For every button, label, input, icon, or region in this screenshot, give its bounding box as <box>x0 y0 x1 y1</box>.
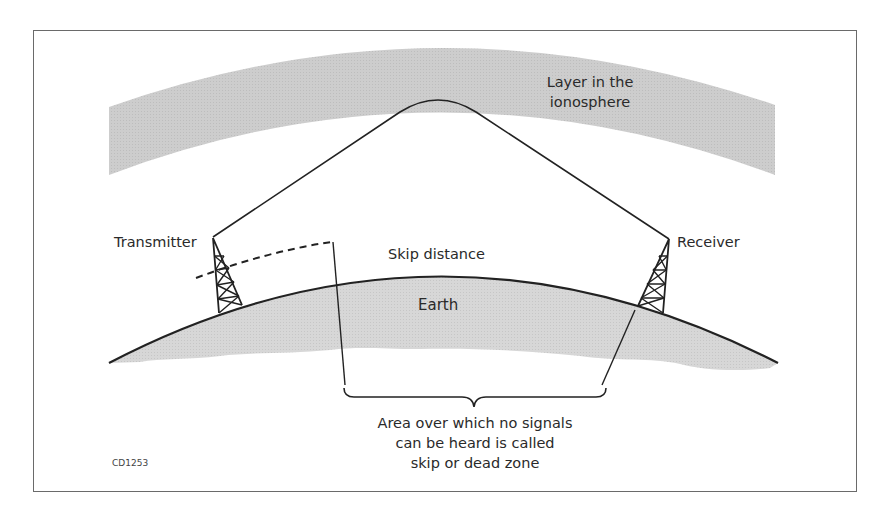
ionosphere-label: Layer in the ionosphere <box>530 72 650 112</box>
transmitter-tower <box>213 238 242 313</box>
dead-zone-caption-line2: can be heard is called <box>330 433 620 453</box>
ionosphere-label-line2: ionosphere <box>530 92 650 112</box>
ionosphere-layer <box>109 48 775 175</box>
earth-label: Earth <box>418 298 458 313</box>
dead-zone-caption: Area over which no signals can be heard … <box>330 413 620 473</box>
receiver-label: Receiver <box>677 235 740 250</box>
transmitter-label: Transmitter <box>114 235 197 250</box>
dead-zone-caption-line1: Area over which no signals <box>330 413 620 433</box>
figure-code: CD1253 <box>112 459 148 468</box>
dead-zone-brace <box>344 388 606 407</box>
dead-zone-caption-line3: skip or dead zone <box>330 453 620 473</box>
skip-distance-label: Skip distance <box>388 247 485 262</box>
earth-fill <box>109 277 778 371</box>
receiver-tower <box>638 239 669 313</box>
ionosphere-label-line1: Layer in the <box>530 72 650 92</box>
